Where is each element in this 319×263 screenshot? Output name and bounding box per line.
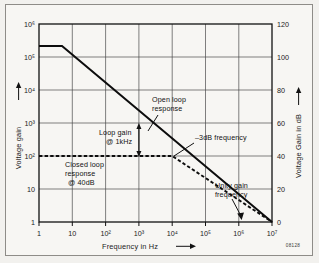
- y-right-tick-label-20: 20: [277, 185, 285, 194]
- annotation-unity-gain-leader: [232, 199, 244, 220]
- x-tick-label-10: 10: [68, 229, 76, 238]
- y-left-tick-label-1e2: 10²: [25, 152, 36, 161]
- loop-gain-double-arrow-icon: [136, 123, 141, 157]
- y-right-tick-label-120: 120: [277, 20, 289, 29]
- x-tick-label-1m: 10⁶: [233, 229, 244, 238]
- y-left-axis-arrow-icon: [16, 82, 21, 100]
- annotation-loop-gain-line2: @ 1kHz: [106, 137, 133, 146]
- figure-corner-code: 08128: [286, 243, 300, 248]
- x-tick-label-100k: 10⁵: [200, 229, 211, 238]
- y-right-tick-label-0: 0: [277, 218, 281, 227]
- bode-plot-figure: 1 10 10² 10³ 10⁴ 10⁵ 10⁶ 10⁷ 10⁶ 10⁵ 10⁴…: [0, 0, 319, 263]
- y-right-axis-title: Voltage Gain in dB: [294, 114, 303, 178]
- x-tick-label-10k: 10⁴: [167, 229, 178, 238]
- y-left-tick-label-1e4: 10⁴: [24, 86, 35, 95]
- annotation-three-db-frequency: –3dB frequency: [195, 133, 247, 142]
- y-right-tick-label-60: 60: [277, 119, 285, 128]
- y-right-tick-label-40: 40: [277, 152, 285, 161]
- annotation-closed-loop-line2: response: [65, 169, 95, 178]
- annotation-unity-gain-line2: frequency: [215, 190, 248, 199]
- x-tick-label-1k: 10³: [134, 229, 145, 238]
- annotation-closed-loop-line1: Closed loop: [65, 160, 104, 169]
- y-left-tick-label-1: 1: [31, 218, 35, 227]
- x-tick-label-100: 10²: [100, 229, 111, 238]
- annotation-loop-gain-line1: Loop gain: [99, 128, 131, 137]
- x-tick-label-1: 1: [37, 229, 41, 238]
- y-left-axis-title: Voltage gain: [14, 127, 23, 169]
- x-axis-title: Frequency in Hz: [102, 242, 158, 251]
- annotation-open-loop-line1: Open loop: [152, 95, 186, 104]
- annotation-unity-gain-line1: Unity gain: [215, 181, 248, 190]
- y-right-tick-label-100: 100: [277, 53, 289, 62]
- x-tick-label-10m: 10⁷: [267, 229, 278, 238]
- y-left-tick-label-1e5: 10⁵: [24, 53, 35, 62]
- x-axis-arrow-icon: [176, 244, 196, 249]
- annotation-open-loop-line2: response: [152, 104, 182, 113]
- y-left-tick-label-10: 10: [27, 185, 35, 194]
- frequency-response-chart: 1 10 10² 10³ 10⁴ 10⁵ 10⁶ 10⁷ 10⁶ 10⁵ 10⁴…: [0, 0, 319, 263]
- y-left-tick-label-1e3: 10³: [25, 119, 36, 128]
- y-right-tick-label-80: 80: [277, 86, 285, 95]
- y-right-axis-arrow-icon: [296, 87, 301, 105]
- annotation-closed-loop-line3: @ 40dB: [68, 178, 95, 187]
- y-left-tick-label-1e6: 10⁶: [24, 20, 35, 29]
